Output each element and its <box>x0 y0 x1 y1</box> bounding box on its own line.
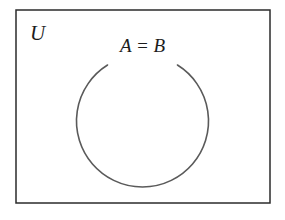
universal-set-label: U <box>30 21 47 45</box>
set-label-a-equals-b: A = B <box>118 35 166 56</box>
venn-diagram-container: U A = B <box>0 0 285 220</box>
venn-diagram-canvas: U A = B <box>0 0 285 220</box>
